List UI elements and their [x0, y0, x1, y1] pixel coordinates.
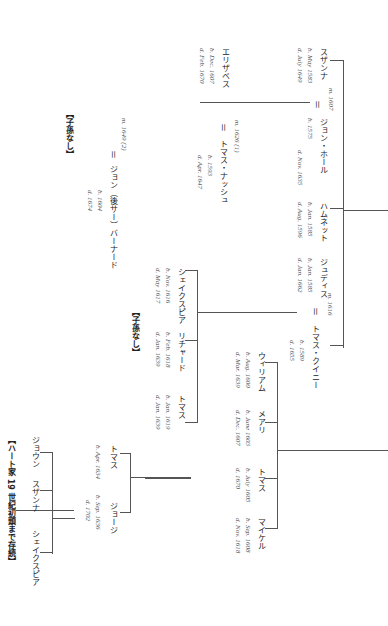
connector-line	[330, 60, 344, 61]
connector-line	[185, 340, 198, 341]
richard-died: d. Jan. 1639	[154, 332, 162, 367]
hamnet-died: d. Aug. 1596	[296, 202, 304, 238]
connector-line	[185, 270, 198, 271]
john-barnard-born: b. 1604	[96, 190, 104, 211]
connector-line	[265, 528, 278, 529]
person-thomas-hart: トマス	[256, 468, 265, 492]
person-joan: ジョウン	[30, 436, 39, 468]
thomas-hart-2-born: b. Apr. 1634	[94, 445, 102, 479]
spine-line	[343, 60, 344, 348]
mary-died: d. Dec. 1607	[234, 410, 242, 446]
married-symbol: ＝	[108, 150, 118, 159]
connector-line	[277, 450, 388, 451]
person-george: ジョージ	[108, 502, 117, 534]
person-john-barnard: ジョン（後サー）バーナード	[108, 165, 117, 269]
thomas-quiney-died: d. 1655	[288, 340, 296, 361]
connector-line	[185, 422, 198, 423]
person-richard: リチャード	[176, 332, 185, 372]
marriage-date: m. 1649 (2)	[120, 118, 128, 150]
person-hamnet: ハムネット	[318, 202, 327, 242]
john-hall-died: d. Nov. 1635	[296, 150, 304, 185]
connector-line	[343, 210, 388, 211]
person-william: ウィリアム	[256, 352, 265, 392]
thomas-hart-died: d. 1670	[234, 468, 242, 489]
person-thomas-quiney-son: トマス	[176, 395, 185, 419]
mary-born: b. June 1603	[244, 410, 252, 446]
connector-line	[245, 312, 297, 313]
thomas-quiney-born: b. 1589	[298, 340, 306, 361]
person-judith: ジュディス	[318, 258, 327, 298]
connector-line	[200, 102, 310, 103]
john-hall-born: b. 1575	[306, 118, 314, 139]
marriage-date: m. 1607	[327, 88, 335, 111]
person-shakespeare-hart: シェイクスピア	[30, 530, 39, 586]
connector-line	[120, 453, 131, 454]
susanna-born: b. May 1583	[306, 48, 314, 83]
william-born: b. Aug. 1600	[244, 352, 252, 388]
thomas-nash-born: b. 1593	[206, 155, 214, 176]
person-thomas-hart-2: トマス	[108, 445, 117, 469]
thomas-quiney-son-died: d. Jan. 1639	[154, 395, 162, 430]
elizabeth-died: d. Feb. 1670	[198, 48, 206, 83]
richard-born: b. Feb. 1618	[164, 332, 172, 367]
married-symbol: ＝	[310, 307, 320, 316]
michael-died: d. Nov. 1618	[234, 518, 242, 553]
hart-family-note: 【ハート家 19 世紀初頭まで存続】	[6, 436, 15, 565]
connector-line	[40, 452, 53, 453]
thomas-quiney-son-born: b. Jan. 1619	[164, 395, 172, 430]
connector-line	[16, 510, 74, 511]
elizabeth-born: b. Dec. 1607	[208, 48, 216, 84]
thomas-hart-line	[130, 453, 131, 513]
no-issue-note: 【子孫なし】	[130, 308, 139, 356]
person-shakespeare-quiney: シェイクスピア	[176, 268, 185, 324]
connector-line	[265, 478, 278, 479]
connector-line	[40, 490, 53, 491]
person-susanna: スザンナ	[318, 48, 327, 80]
john-barnard-died: d. 1674	[86, 190, 94, 211]
person-thomas-quiney: トマス・クイニー	[310, 325, 319, 389]
connector-line	[330, 345, 344, 346]
judith-died: d. Jan. 1662	[296, 258, 304, 293]
shakespeare-quiney-born: b. Nov. 1616	[164, 268, 172, 303]
thomas-nash-died: d. Apr. 1647	[196, 155, 204, 189]
connector-line	[265, 362, 278, 363]
connector-line	[131, 477, 191, 478]
thomas-hart-born: b. July 1605	[244, 468, 252, 502]
connector-line	[265, 422, 278, 423]
person-thomas-nash: トマス・ナッシュ	[218, 140, 227, 204]
marriage-date: m. 1616	[326, 293, 334, 316]
no-issue-note: 【子孫なし】	[64, 110, 73, 158]
connector-line	[197, 312, 245, 313]
person-michael: マイケル	[256, 518, 265, 550]
michael-born: b. Sep. 1608	[244, 518, 252, 553]
quiney-line	[197, 270, 198, 423]
person-susanna-hart: スザンナ	[30, 480, 39, 512]
william-died: d. Mar. 1639	[234, 352, 242, 388]
connector-line	[145, 478, 191, 479]
judith-born: b. Jan. 1585	[306, 258, 314, 293]
connector-line	[53, 518, 75, 519]
connector-line	[40, 552, 53, 553]
married-symbol: ＝	[312, 100, 322, 109]
person-john-hall: ジョン・ホール	[318, 118, 327, 174]
connector-line	[120, 512, 131, 513]
connector-line	[330, 208, 344, 209]
hamnet-born: b. Jan. 1585	[306, 202, 314, 237]
marriage-date: m. 1626 (1)	[233, 120, 241, 152]
person-mary: メアリ	[256, 410, 265, 434]
george-died: d. 1702	[84, 500, 92, 521]
hart-line	[277, 362, 278, 529]
george-born: b. Sep. 1636	[94, 495, 102, 530]
george-children-line	[52, 452, 53, 554]
married-symbol: ＝	[218, 123, 228, 132]
person-elizabeth: エリザベス	[220, 48, 229, 88]
shakespeare-quiney-died: d. May 1617	[154, 268, 162, 303]
susanna-died: d. July 1649	[296, 48, 304, 82]
